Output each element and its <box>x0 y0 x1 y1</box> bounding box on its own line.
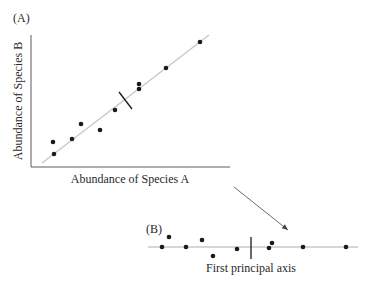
panel-a-centroid-tick <box>119 92 132 109</box>
data-point <box>51 140 56 145</box>
data-point <box>267 246 272 251</box>
data-point <box>184 245 189 250</box>
data-point <box>164 66 169 71</box>
data-point <box>70 137 75 142</box>
panel-a-xlabel: Abundance of Species A <box>71 172 190 186</box>
data-point <box>137 87 142 92</box>
panel-a-label: (A) <box>13 11 30 25</box>
data-point <box>79 122 84 127</box>
panel-a-fit-line <box>42 35 209 163</box>
data-point <box>137 82 142 87</box>
arrow-head-icon <box>282 224 288 230</box>
data-point <box>211 254 216 259</box>
data-point <box>344 245 349 250</box>
data-point <box>198 40 203 45</box>
data-point <box>167 235 172 240</box>
data-point <box>301 245 306 250</box>
panel-b-label: (B) <box>146 222 162 236</box>
panel-b-axis-label: First principal axis <box>206 261 296 275</box>
data-point <box>200 238 205 243</box>
pca-diagram: (A) Abundance of Species A Abundance of … <box>0 0 371 290</box>
data-point <box>52 152 57 157</box>
arrow <box>234 187 288 230</box>
data-point <box>235 247 240 252</box>
data-point <box>270 241 275 246</box>
panel-a-ylabel: Abundance of Species B <box>11 42 25 160</box>
data-point <box>98 128 103 133</box>
data-point <box>113 108 118 113</box>
data-point <box>160 245 165 250</box>
